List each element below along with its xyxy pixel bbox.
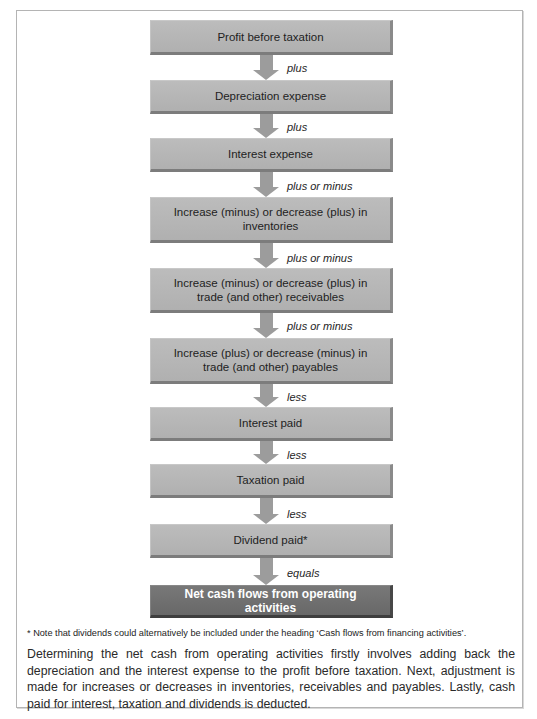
step-label: Taxation paid xyxy=(237,473,305,487)
connector-label: plus or minus xyxy=(287,252,352,264)
step-receivables: Increase (minus) or decrease (plus) in t… xyxy=(150,268,393,313)
connector-label: equals xyxy=(287,567,319,579)
step-label: Interest expense xyxy=(228,147,313,161)
step-label: Increase (minus) or decrease (plus) in i… xyxy=(165,205,376,233)
connector-label: less xyxy=(287,508,307,520)
down-arrow-icon xyxy=(253,558,280,585)
step-label: Net cash flows from operating activities xyxy=(165,587,376,615)
step-profit-before-taxation: Profit before taxation xyxy=(150,20,393,55)
connector-label: less xyxy=(287,449,307,461)
footnote: * Note that dividends could alternativel… xyxy=(27,628,466,638)
connector-label: plus xyxy=(287,121,307,133)
step-net-cash-flows: Net cash flows from operating activities xyxy=(150,585,393,618)
step-depreciation-expense: Depreciation expense xyxy=(150,80,393,114)
step-interest-paid: Interest paid xyxy=(150,407,393,441)
down-arrow-icon xyxy=(253,114,280,138)
step-label: Increase (plus) or decrease (minus) in t… xyxy=(165,346,376,374)
cutoff-text-line xyxy=(26,713,326,719)
connector-label: less xyxy=(287,391,307,403)
step-label: Interest paid xyxy=(239,416,302,430)
down-arrow-icon xyxy=(253,313,280,338)
connector-label: plus or minus xyxy=(287,320,352,332)
step-label: Dividend paid* xyxy=(233,533,307,547)
step-taxation-paid: Taxation paid xyxy=(150,464,393,498)
connector-label: plus xyxy=(287,62,307,74)
down-arrow-icon xyxy=(253,441,280,464)
down-arrow-icon xyxy=(253,498,280,524)
step-label: Profit before taxation xyxy=(217,30,323,44)
down-arrow-icon xyxy=(253,172,280,197)
step-inventories: Increase (minus) or decrease (plus) in i… xyxy=(150,197,393,243)
down-arrow-icon xyxy=(253,55,280,80)
step-label: Depreciation expense xyxy=(215,89,326,103)
step-payables: Increase (plus) or decrease (minus) in t… xyxy=(150,338,393,384)
down-arrow-icon xyxy=(253,243,280,268)
step-label: Increase (minus) or decrease (plus) in t… xyxy=(165,276,376,304)
connector-label: plus or minus xyxy=(287,180,352,192)
step-dividend-paid: Dividend paid* xyxy=(150,524,393,558)
figure-caption: Determining the net cash from operating … xyxy=(27,646,515,712)
step-interest-expense: Interest expense xyxy=(150,138,393,172)
down-arrow-icon xyxy=(253,384,280,407)
